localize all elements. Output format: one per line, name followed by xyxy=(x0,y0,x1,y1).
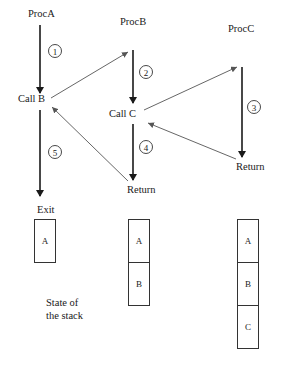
procedure-call-diagram: ProcA 1 Call B 5 Exit ProcB 2 Call C 4 R… xyxy=(0,0,282,366)
proc-c-return-label: Return xyxy=(236,161,265,172)
svg-text:A: A xyxy=(136,236,143,246)
return-to-b-arrow xyxy=(148,123,236,159)
svg-text:A: A xyxy=(245,236,252,246)
svg-text:4: 4 xyxy=(144,143,149,153)
stack-state-2: A B xyxy=(129,220,150,306)
call-b-arrow xyxy=(51,52,128,98)
stack-state-3: A B C xyxy=(238,220,259,349)
step-1-marker: 1 xyxy=(49,45,62,58)
stack-caption-line-1: State of xyxy=(46,297,79,308)
proc-b-label: ProcB xyxy=(120,16,146,27)
svg-text:5: 5 xyxy=(53,148,58,158)
svg-text:3: 3 xyxy=(252,103,257,113)
step-3-marker: 3 xyxy=(248,101,261,114)
stack-caption-line-2: the stack xyxy=(46,310,84,321)
svg-text:1: 1 xyxy=(53,47,58,57)
proc-b-return-label: Return xyxy=(127,184,156,195)
step-5-marker: 5 xyxy=(49,146,62,159)
svg-text:A: A xyxy=(42,236,49,246)
proc-c-label: ProcC xyxy=(228,23,254,34)
call-c-label: Call C xyxy=(109,108,136,119)
call-c-arrow xyxy=(144,67,237,110)
svg-text:B: B xyxy=(136,279,142,289)
proc-a-label: ProcA xyxy=(28,8,55,19)
step-4-marker: 4 xyxy=(140,141,153,154)
step-2-marker: 2 xyxy=(140,66,153,79)
call-b-label: Call B xyxy=(18,93,45,104)
svg-text:C: C xyxy=(245,322,251,332)
svg-text:2: 2 xyxy=(144,68,149,78)
exit-label: Exit xyxy=(37,204,55,215)
svg-text:B: B xyxy=(245,279,251,289)
stack-state-1: A xyxy=(35,220,56,263)
